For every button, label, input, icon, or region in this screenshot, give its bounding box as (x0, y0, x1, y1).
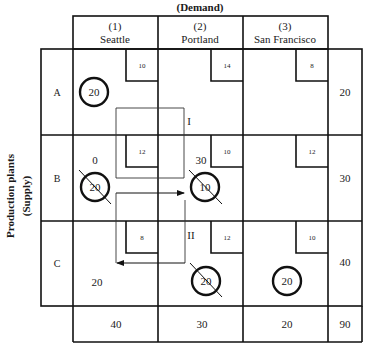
alloc-b2: 10 (200, 181, 212, 193)
grand-total: 90 (340, 318, 352, 330)
cost-c2: 12 (224, 234, 232, 242)
cost-b3: 12 (309, 148, 317, 156)
svg-text:(1): (1) (109, 20, 122, 33)
supply-a: 20 (340, 86, 352, 98)
demand-title: (Demand) (176, 1, 223, 14)
supply-c: 40 (340, 256, 352, 268)
alloc-c3: 20 (282, 275, 294, 287)
column-header-portland: (2) Portland (181, 20, 219, 45)
row-label-c: C (54, 258, 61, 269)
cost-a1: 10 (139, 62, 147, 70)
column-header-seattle: (1) Seattle (100, 20, 130, 45)
cost-b1: 12 (139, 148, 147, 156)
alloc-c2: 20 (201, 275, 213, 287)
alloc-b1: 20 (90, 181, 102, 193)
allocation-circles (80, 78, 301, 295)
cost-c3: 10 (309, 234, 317, 242)
loop-i-label: I (187, 115, 191, 127)
transportation-tableau: (Demand) Production plants (Supply) (1) … (0, 0, 368, 344)
alloc-a1: 20 (89, 86, 101, 98)
svg-text:(3): (3) (279, 20, 292, 33)
svg-text:Seattle: Seattle (100, 33, 130, 45)
note-c1: 20 (92, 276, 104, 288)
demand-seattle: 40 (111, 318, 123, 330)
svg-text:(2): (2) (194, 20, 207, 33)
cost-c1: 8 (140, 234, 144, 242)
demand-san-francisco: 20 (282, 318, 294, 330)
cost-a2: 14 (224, 62, 232, 70)
svg-text:Portland: Portland (181, 33, 219, 45)
row-label-b: B (54, 173, 61, 184)
note-b2: 30 (196, 154, 208, 166)
side-label-line1: Production plants (4, 153, 16, 238)
supply-side-label: Production plants (Supply) (4, 153, 33, 238)
supply-b: 30 (340, 172, 352, 184)
demand-portland: 30 (197, 318, 209, 330)
cost-b2: 10 (224, 148, 232, 156)
column-header-san-francisco: (3) San Francisco (254, 20, 317, 45)
cost-a3: 8 (310, 62, 314, 70)
side-label-line2: (Supply) (20, 175, 33, 216)
note-b1: 0 (92, 154, 98, 166)
svg-text:San Francisco: San Francisco (254, 33, 317, 45)
row-label-a: A (53, 87, 61, 98)
loop-ii-label: II (187, 229, 195, 241)
